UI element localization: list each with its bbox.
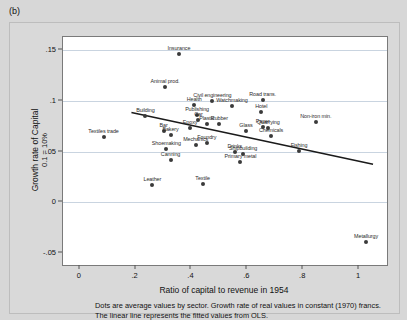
scatter-point-label: Non-iron min. xyxy=(300,113,331,119)
y-tick-label: -.05 xyxy=(43,247,56,256)
scatter-point-label: Textile xyxy=(195,175,210,181)
scatter-point-label: Rubber xyxy=(211,115,228,121)
figure-container: Growth rate of Capital 0.1 = 10% -.050.0… xyxy=(9,22,400,314)
panel-label: (b) xyxy=(9,6,20,16)
scatter-point xyxy=(297,149,301,153)
x-tick-mark xyxy=(78,265,79,269)
x-tick-label: .6 xyxy=(243,271,249,280)
x-tick-label: 1 xyxy=(356,271,360,280)
scatter-point-label: Hotel xyxy=(255,103,267,109)
scatter-point-label: Shoemaking xyxy=(152,140,181,146)
y-tick-label: .15 xyxy=(46,45,56,54)
caption-line-1: Dots are average values by sector. Growt… xyxy=(95,301,395,311)
scatter-point-label: Leather xyxy=(144,176,162,182)
scatter-point-label: Quarrying xyxy=(257,119,280,125)
caption-line-2: The linear line represents the fitted va… xyxy=(95,311,395,320)
x-tick-label: .8 xyxy=(299,271,305,280)
scatter-point-label: Canning xyxy=(161,151,180,157)
scatter-point-label: Fishing xyxy=(291,142,308,148)
x-tick-mark xyxy=(190,265,191,269)
x-tick-label: .4 xyxy=(187,271,193,280)
x-tick-mark xyxy=(134,265,135,269)
x-tick-mark xyxy=(302,265,303,269)
scatter-point-label: Shipbuilding xyxy=(229,145,257,151)
scatter-point-label: Bakery xyxy=(162,126,178,132)
y-axis-title-text: Growth rate of Capital xyxy=(30,109,40,192)
ols-fit-line xyxy=(63,37,387,265)
scatter-point xyxy=(205,122,209,126)
y-tick-label: 0 xyxy=(52,197,56,206)
x-tick-label: .2 xyxy=(131,271,137,280)
scatter-point xyxy=(201,182,205,186)
scatter-point-label: Insurance xyxy=(168,45,191,51)
scatter-point xyxy=(244,129,248,133)
scatter-point-label: Glass xyxy=(239,122,252,128)
scatter-point xyxy=(314,120,318,124)
scatter-point xyxy=(102,135,106,139)
scatter-point-label: Metallurgy xyxy=(354,233,378,239)
scatter-point-label: Road trans. xyxy=(249,91,276,97)
scatter-point xyxy=(169,133,173,137)
scatter-point-label: Primary metal xyxy=(224,153,256,159)
scatter-point-label: Watchmaking xyxy=(216,97,247,103)
scatter-point-label: Textiles trade xyxy=(88,128,118,134)
y-tick-label: .05 xyxy=(46,146,56,155)
scatter-point xyxy=(269,134,273,138)
x-tick-mark xyxy=(246,265,247,269)
scatter-point xyxy=(177,52,181,56)
x-axis-title: Ratio of capital to revenue in 1954 xyxy=(62,285,386,295)
scatter-point-label: Epoxy xyxy=(183,119,197,125)
plot-area: InsuranceAnimal prod.Civil engineeringRo… xyxy=(62,36,388,266)
y-tick-label: .1 xyxy=(50,95,56,104)
y-axis-title: Growth rate of Capital 0.1 = 10% xyxy=(12,36,34,264)
scatter-point-label: Mechanics xyxy=(183,136,208,142)
scatter-point-label: Chemicals xyxy=(259,127,283,133)
figure-caption: Dots are average values by sector. Growt… xyxy=(95,301,395,320)
x-tick-mark xyxy=(358,265,359,269)
scatter-point-label: Building xyxy=(136,107,154,113)
scatter-point xyxy=(194,143,198,147)
scatter-point xyxy=(188,126,192,130)
scatter-point xyxy=(169,158,173,162)
x-tick-label: 0 xyxy=(77,271,81,280)
scatter-point-label: Animal prod. xyxy=(150,78,179,84)
scatter-point-label: Health xyxy=(187,96,202,102)
